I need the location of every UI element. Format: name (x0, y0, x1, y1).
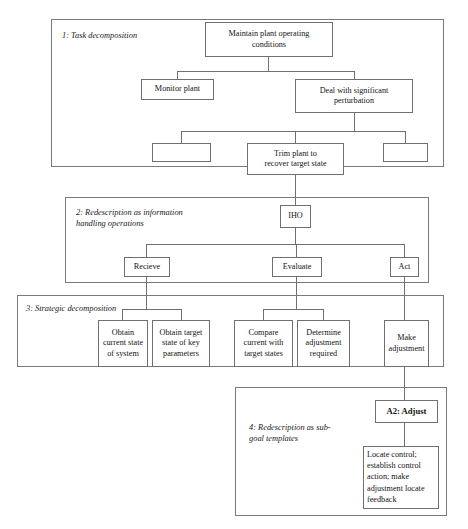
box-label: Locate control; establish control action… (367, 449, 425, 505)
box-recieve: Recieve (124, 257, 170, 277)
connector-split-to-trim-plant (295, 131, 296, 143)
connector-split-bar-level1 (177, 71, 354, 72)
connector-iho-to-split (295, 228, 296, 244)
box-label: Determine adjustment required (306, 328, 342, 360)
box-label: Obtain current state of system (103, 328, 143, 360)
connector-split-to-recieve (146, 244, 147, 257)
box-label: Compare current with target states (244, 328, 284, 360)
connector-split-bar-iho (146, 244, 404, 245)
box-monitor-plant: Monitor plant (141, 79, 214, 100)
connector-a2-adjust-to-locate-control (404, 423, 405, 446)
box-act: Act (390, 257, 419, 277)
box-label: Deal with significant perturbation (320, 86, 389, 107)
connector-split-to-obtain-target-state (181, 309, 182, 320)
connector-split-to-obtain-current-state (122, 309, 123, 320)
box-label: A2: Adjust (387, 406, 427, 417)
box-trim-plant-to-recover-target-state: Trim plant to recover target state (247, 143, 344, 175)
box-maintain-plant-operating-conditions: Maintain plant operating conditions (205, 22, 333, 57)
box-label: Maintain plant operating conditions (229, 29, 310, 50)
box-label: Evaluate (283, 262, 312, 273)
connector-split-to-act (404, 244, 405, 257)
connector-split-bar-recieve (122, 309, 181, 310)
box-empty-right-panel-1 (383, 143, 428, 162)
connector-split-to-determine-adjustment (323, 309, 324, 320)
connector-split-to-deal-with-perturbation (354, 71, 355, 79)
box-a2-adjust: A2: Adjust (375, 400, 438, 423)
box-deal-with-significant-perturbation: Deal with significant perturbation (295, 79, 413, 113)
box-label: Obtain target state of key parameters (160, 328, 203, 360)
box-label: IHO (288, 211, 303, 222)
panel-2-label: 2: Redescription as information handling… (76, 207, 251, 229)
decomposition-diagram: 1: Task decomposition Maintain plant ope… (0, 0, 468, 529)
connector-split-bar-level2 (181, 131, 405, 132)
connector-split-to-evaluate (296, 244, 297, 257)
box-label: Recieve (134, 262, 160, 273)
box-label: Make adjustment (389, 333, 425, 354)
box-determine-adjustment-required: Determine adjustment required (297, 320, 350, 367)
box-empty-left-panel-1 (152, 143, 211, 162)
box-label: Act (399, 262, 411, 273)
connector-deal-to-split (354, 113, 355, 131)
box-make-adjustment: Make adjustment (384, 320, 429, 367)
panel-4-label: 4: Redescription as sub- goal templates (249, 422, 359, 444)
box-label: Monitor plant (155, 84, 200, 95)
box-compare-current-with-target-states: Compare current with target states (234, 320, 293, 367)
box-evaluate: Evaluate (272, 257, 322, 277)
box-label: Trim plant to recover target state (264, 149, 326, 170)
connector-split-bar-evaluate (263, 309, 323, 310)
connector-maintain-to-split (268, 57, 269, 71)
connector-split-to-empty-right (405, 131, 406, 143)
box-iho: IHO (280, 205, 311, 228)
box-locate-control-establish-action: Locate control; establish control action… (363, 446, 439, 509)
connector-split-to-monitor-plant (177, 71, 178, 79)
box-obtain-target-state-of-key-parameters: Obtain target state of key parameters (152, 320, 210, 367)
connector-split-to-compare-current-target (263, 309, 264, 320)
connector-split-to-empty-left (181, 131, 182, 143)
box-obtain-current-state-of-system: Obtain current state of system (98, 320, 148, 367)
